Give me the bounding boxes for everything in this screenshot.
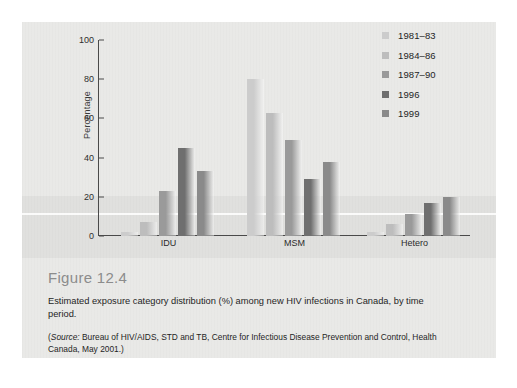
- legend-item: 1981–83: [382, 30, 436, 41]
- figure-caption: Figure 12.4 Estimated exposure category …: [48, 269, 468, 355]
- bar: [121, 232, 138, 236]
- legend-label: 1984–86: [398, 50, 436, 61]
- y-axis-tick-label: 20: [64, 192, 94, 202]
- bar-chart: Percentage 020406080100 1981–831984–8619…: [22, 22, 496, 262]
- bar-group: [247, 40, 342, 236]
- bar: [386, 224, 403, 236]
- bar: [140, 222, 157, 236]
- bar: [443, 197, 460, 236]
- bar: [197, 171, 214, 236]
- legend-label: 1987–90: [398, 69, 436, 80]
- bar-group: [121, 40, 216, 236]
- legend-label: 1999: [398, 108, 420, 119]
- figure-source: (Source: Bureau of HIV/AIDS, STD and TB,…: [48, 331, 452, 355]
- bar: [247, 79, 264, 236]
- bar: [405, 214, 422, 236]
- legend-swatch-icon: [382, 52, 389, 59]
- legend-swatch-icon: [382, 71, 389, 78]
- y-axis-tick-label: 40: [64, 153, 94, 163]
- bar: [367, 232, 384, 236]
- legend-item: 1996: [382, 89, 436, 100]
- legend-item: 1987–90: [382, 69, 436, 80]
- y-axis-tick-labels: 020406080100: [60, 22, 94, 262]
- legend-item: 1984–86: [382, 50, 436, 61]
- legend-swatch-icon: [382, 110, 389, 117]
- figure-description: Estimated exposure category distribution…: [48, 295, 446, 322]
- x-axis-category-label: IDU: [124, 238, 214, 248]
- legend-label: 1996: [398, 89, 420, 100]
- figure-title: Figure 12.4: [48, 269, 468, 286]
- legend-swatch-icon: [382, 32, 389, 39]
- legend-swatch-icon: [382, 91, 389, 98]
- bar: [424, 203, 441, 236]
- legend-item: 1999: [382, 108, 436, 119]
- bar: [266, 113, 283, 236]
- source-label: Source:: [51, 332, 80, 342]
- y-axis-tick-label: 100: [64, 35, 94, 45]
- source-body: Bureau of HIV/AIDS, STD and TB, Centre f…: [48, 332, 437, 354]
- y-axis-tick-label: 80: [64, 74, 94, 84]
- y-axis-tick-label: 0: [64, 231, 94, 241]
- chart-legend: 1981–831984–861987–9019961999: [382, 30, 436, 128]
- bar: [304, 179, 321, 236]
- legend-label: 1981–83: [398, 30, 436, 41]
- x-axis-category-label: Hetero: [370, 238, 460, 248]
- y-axis-tick-label: 60: [64, 113, 94, 123]
- bar: [323, 162, 340, 236]
- x-axis-category-label: MSM: [250, 238, 340, 248]
- figure-page: Percentage 020406080100 1981–831984–8619…: [0, 0, 517, 388]
- bar: [178, 148, 195, 236]
- bar: [285, 140, 302, 236]
- bar: [159, 191, 176, 236]
- scanned-figure-panel: Percentage 020406080100 1981–831984–8619…: [22, 22, 496, 358]
